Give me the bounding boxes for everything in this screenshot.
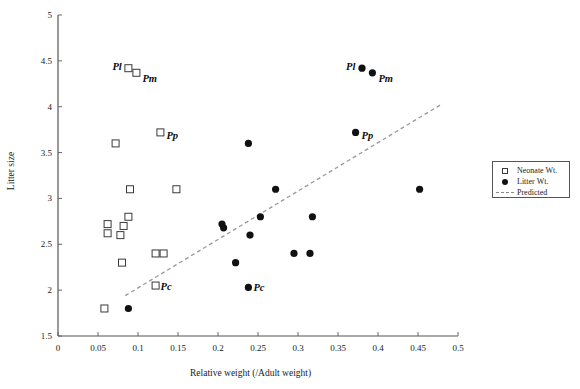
y-tick-label: 2 — [24, 286, 52, 295]
x-tick-label: 0.1 — [132, 344, 143, 353]
legend-label-litter-wt: Litter Wt. — [517, 177, 548, 186]
series-neonate-wt — [101, 65, 180, 312]
data-point-neonate — [157, 129, 164, 136]
scatter-plot-figure: 00.050.10.150.20.250.30.350.40.450.5 1.5… — [0, 0, 580, 389]
chart-legend: Neonate Wt. Litter Wt. Predicted — [492, 161, 570, 198]
data-point-litter — [245, 140, 252, 147]
data-point-neonate — [104, 230, 111, 237]
data-point-litter — [309, 213, 316, 220]
data-point-litter — [306, 250, 313, 257]
y-tick-label: 4.5 — [24, 56, 52, 65]
data-point-litter — [416, 186, 423, 193]
legend-item-predicted: Predicted — [493, 187, 569, 198]
data-point-neonate — [127, 186, 134, 193]
data-point-litter — [246, 232, 253, 239]
data-point-neonate — [104, 221, 111, 228]
y-tick-label: 2.5 — [24, 240, 52, 249]
y-tick-label: 3.5 — [24, 148, 52, 157]
y-tick-label: 5 — [24, 11, 52, 20]
y-tick-label: 4 — [24, 102, 52, 111]
data-point-litter — [352, 129, 359, 136]
point-label-pc: Pc — [253, 283, 264, 294]
y-tick-label: 1.5 — [24, 332, 52, 341]
dashed-line-icon — [493, 192, 517, 193]
point-label-pm: Pm — [142, 74, 157, 85]
point-label-pm: Pm — [378, 74, 393, 85]
data-point-neonate — [125, 213, 132, 220]
x-tick-label: 0.2 — [212, 344, 223, 353]
x-tick-label: 0.3 — [292, 344, 303, 353]
legend-label-predicted: Predicted — [517, 188, 547, 197]
data-point-neonate — [152, 282, 159, 289]
x-tick-label: 0.35 — [330, 344, 346, 353]
x-tick-label: 0.15 — [170, 344, 186, 353]
data-point-neonate — [117, 232, 124, 239]
x-tick-label: 0.4 — [372, 344, 383, 353]
data-point-litter — [257, 213, 264, 220]
series-litter-wt — [125, 65, 423, 312]
point-label-pp: Pp — [362, 131, 374, 142]
data-point-neonate — [125, 65, 132, 72]
point-label-pp: Pp — [166, 131, 178, 142]
legend-item-neonate-wt: Neonate Wt. — [493, 165, 569, 176]
data-point-neonate — [160, 250, 167, 257]
data-point-neonate — [173, 186, 180, 193]
x-tick-label: 0 — [56, 344, 61, 353]
legend-item-litter-wt: Litter Wt. — [493, 176, 569, 187]
data-point-litter — [369, 69, 376, 76]
data-point-neonate — [112, 140, 119, 147]
y-tick-label: 3 — [24, 194, 52, 203]
data-point-litter — [232, 259, 239, 266]
x-axis-title: Relative weight (/Adult weight) — [190, 368, 311, 378]
data-point-neonate — [152, 250, 159, 257]
x-tick-label: 0.45 — [410, 344, 426, 353]
data-point-neonate — [101, 305, 108, 312]
data-point-litter — [358, 65, 365, 72]
data-point-litter — [290, 250, 297, 257]
data-point-litter — [272, 186, 279, 193]
x-tick-label: 0.05 — [90, 344, 106, 353]
data-point-neonate — [120, 222, 127, 229]
data-point-litter — [125, 305, 132, 312]
open-square-icon — [493, 168, 517, 174]
point-label-pl: Pl — [112, 62, 121, 73]
point-label-pl: Pl — [346, 62, 355, 73]
data-point-neonate — [119, 259, 126, 266]
data-point-neonate — [133, 69, 140, 76]
data-point-litter — [220, 224, 227, 231]
filled-dot-icon — [493, 179, 517, 185]
x-tick-label: 0.5 — [452, 344, 463, 353]
legend-label-neonate-wt: Neonate Wt. — [517, 166, 557, 175]
y-axis-title: Litter size — [6, 141, 16, 201]
data-point-litter — [245, 284, 252, 291]
x-tick-label: 0.25 — [250, 344, 266, 353]
point-label-pc: Pc — [161, 282, 172, 293]
